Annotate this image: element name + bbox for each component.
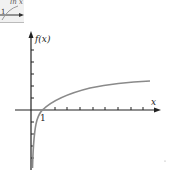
stray-dot: [164, 160, 165, 161]
x-axis: [15, 107, 161, 113]
y-axis-label: f(x): [34, 34, 51, 44]
x-axis-label: x: [151, 97, 156, 107]
x-intercept-label: 1: [40, 113, 46, 123]
ln-curve: [33, 81, 151, 168]
log-function-graph: f(x) x 1: [0, 0, 169, 178]
x-axis-arrow-icon: [154, 108, 161, 113]
y-axis-arrow-icon: [29, 31, 34, 38]
